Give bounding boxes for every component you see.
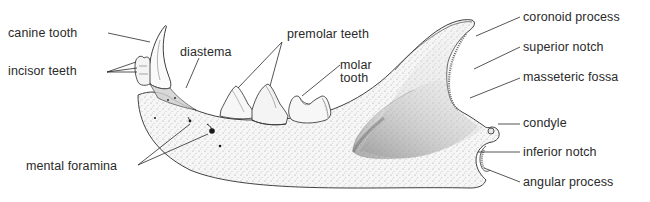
label-molar-line2: tooth [340, 72, 372, 85]
label-mental-foramina: mental foramina [26, 159, 117, 173]
molar-tooth-shape [289, 96, 331, 123]
label-condyle: condyle [523, 116, 567, 130]
label-incisor-teeth: incisor teeth [8, 64, 77, 78]
label-molar-tooth: molar tooth [340, 59, 372, 85]
label-angular-process: angular process [523, 175, 613, 189]
label-masseteric-fossa: masseteric fossa [523, 70, 618, 84]
label-coronoid-process: coronoid process [523, 10, 620, 24]
label-superior-notch: superior notch [523, 40, 604, 54]
label-premolar-teeth: premolar teeth [287, 27, 369, 41]
label-canine-tooth: canine tooth [8, 26, 77, 40]
incisor-teeth-shape [135, 56, 150, 85]
label-diastema: diastema [180, 45, 232, 59]
label-inferior-notch: inferior notch [523, 145, 597, 159]
